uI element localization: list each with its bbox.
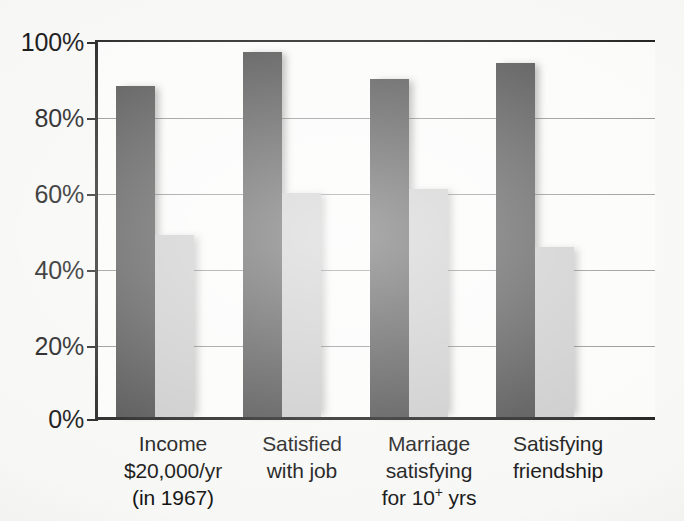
category-label-income: Income $20,000/yr (in 1967) xyxy=(98,430,248,511)
gridline-100: 100% xyxy=(98,42,655,43)
category-label-marriage-line3: for 10+ yrs xyxy=(354,484,504,511)
bar-light-satisfied-job xyxy=(282,193,321,417)
y-axis-label-0: 0% xyxy=(48,405,84,434)
superscript-plus: + xyxy=(435,484,443,500)
bar-light-marriage xyxy=(409,189,448,417)
category-label-friendship: Satisfying friendship xyxy=(482,430,634,484)
category-label-friendship-line2: friendship xyxy=(482,457,634,484)
bar-dark-friendship xyxy=(496,63,535,417)
bar-light-income xyxy=(155,235,194,417)
bar-light-friendship xyxy=(535,247,574,417)
plot-area: 100% 80% 60% 40% 20% 0% xyxy=(95,40,655,420)
y-axis-label-20: 20% xyxy=(35,332,84,361)
category-label-income-line2: $20,000/yr xyxy=(98,457,248,484)
tick-mark-80 xyxy=(87,118,98,120)
tick-mark-20 xyxy=(87,346,98,348)
y-axis-label-100: 100% xyxy=(21,28,84,57)
category-label-income-line1: Income xyxy=(98,430,248,457)
y-axis-label-40: 40% xyxy=(35,256,84,285)
bar-dark-marriage xyxy=(370,79,409,417)
category-label-income-line3: (in 1967) xyxy=(98,484,248,511)
tick-mark-40 xyxy=(87,270,98,272)
chart-figure: 100% 80% 60% 40% 20% 0% xyxy=(0,0,684,521)
tick-mark-0 xyxy=(87,419,98,421)
bar-dark-satisfied-job xyxy=(243,52,282,417)
tick-mark-60 xyxy=(87,194,98,196)
tick-mark-100 xyxy=(87,42,98,44)
y-axis-label-60: 60% xyxy=(35,180,84,209)
gridline-0: 0% xyxy=(98,419,655,420)
y-axis-label-80: 80% xyxy=(35,104,84,133)
bar-dark-income xyxy=(116,86,155,417)
category-label-friendship-line1: Satisfying xyxy=(482,430,634,457)
